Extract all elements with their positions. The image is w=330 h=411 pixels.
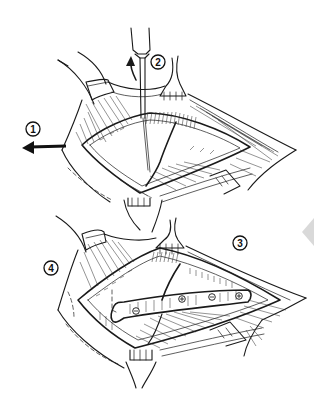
- screw-icon: [209, 294, 216, 301]
- drill-instrument: [131, 28, 150, 172]
- surgical-illustration: 1 2: [0, 0, 330, 411]
- upper-panel: 1 2: [22, 28, 296, 206]
- lower-panel: 3 4: [44, 200, 306, 388]
- step-label-2: 2: [151, 55, 165, 69]
- svg-text:1: 1: [30, 124, 36, 135]
- screw-icon: [179, 296, 186, 303]
- svg-text:2: 2: [155, 57, 161, 68]
- bone-plate: [111, 290, 251, 322]
- screw-icon: [236, 293, 243, 300]
- svg-text:4: 4: [48, 263, 54, 274]
- step-label-3: 3: [233, 236, 247, 250]
- svg-text:3: 3: [237, 238, 243, 249]
- traction-arrow-icon: [22, 141, 66, 154]
- previous-arrow-icon[interactable]: [302, 218, 314, 246]
- arrowhead-icon: [126, 56, 135, 66]
- step-label-4: 4: [44, 261, 58, 275]
- screw-icon: [133, 308, 140, 315]
- step-label-1: 1: [26, 122, 40, 136]
